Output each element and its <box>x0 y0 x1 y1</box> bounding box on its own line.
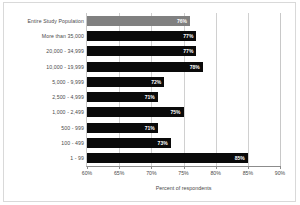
plot-area: Entire Study Population76%More than 35,0… <box>86 13 281 167</box>
bar-row: 1 - 9985% <box>87 151 280 166</box>
tick-mark <box>280 166 281 169</box>
bar-row: More than 35,00077% <box>87 28 280 43</box>
x-tick-label: 75% <box>178 170 188 176</box>
tick-mark <box>151 166 152 169</box>
category-label: 20,000 - 34,999 <box>46 48 84 54</box>
tick-mark <box>248 166 249 169</box>
bar-value-label: 76% <box>177 18 187 24</box>
tick-mark <box>184 166 185 169</box>
bar-value-label: 71% <box>145 125 155 131</box>
bar-row: 10,000 - 19,99978% <box>87 59 280 74</box>
x-tick-label: 80% <box>210 170 220 176</box>
x-tick-label: 90% <box>275 170 285 176</box>
bar-value-label: 75% <box>170 109 180 115</box>
category-label: 1 - 99 <box>70 155 84 161</box>
category-label: 100 - 499 <box>61 140 84 146</box>
bar-value-label: 73% <box>158 140 168 146</box>
x-tick-label: 60% <box>82 170 92 176</box>
x-tick-label: 65% <box>114 170 124 176</box>
x-axis-title: Percent of respondents <box>86 185 281 191</box>
bar: 75% <box>87 107 184 117</box>
bar: 85% <box>87 153 248 163</box>
bar: 77% <box>87 46 196 56</box>
category-label: 1,000 - 2,499 <box>52 109 84 115</box>
bar-value-label: 71% <box>145 94 155 100</box>
bar: 71% <box>87 92 158 102</box>
bar: 73% <box>87 138 171 148</box>
bar-value-label: 77% <box>183 48 193 54</box>
bar-row: 5,000 - 9,99972% <box>87 74 280 89</box>
bar: 77% <box>87 31 196 41</box>
tick-mark <box>119 166 120 169</box>
bar: 72% <box>87 77 164 87</box>
bar-rows: Entire Study Population76%More than 35,0… <box>87 13 280 166</box>
category-label: More than 35,000 <box>42 33 84 39</box>
category-label: 2,500 - 4,999 <box>52 94 84 100</box>
bar: 76% <box>87 16 190 26</box>
chart-frame: Entire Study Population76%More than 35,0… <box>3 2 296 202</box>
tick-mark <box>216 166 217 169</box>
category-label: Entire Study Population <box>27 18 84 24</box>
bar-row: 20,000 - 34,99977% <box>87 44 280 59</box>
bar-row: Entire Study Population76% <box>87 13 280 28</box>
bar-value-label: 72% <box>151 79 161 85</box>
category-label: 10,000 - 19,999 <box>46 64 84 70</box>
bar: 78% <box>87 62 203 72</box>
bar-value-label: 78% <box>190 64 200 70</box>
bar-row: 2,500 - 4,99971% <box>87 90 280 105</box>
bar-value-label: 77% <box>183 33 193 39</box>
category-label: 500 - 999 <box>61 125 84 131</box>
x-tick-label: 70% <box>146 170 156 176</box>
bar-row: 1,000 - 2,49975% <box>87 105 280 120</box>
bar-row: 100 - 49973% <box>87 135 280 150</box>
category-label: 5,000 - 9,999 <box>52 79 84 85</box>
bar-value-label: 85% <box>235 155 245 161</box>
x-tick-label: 85% <box>243 170 253 176</box>
bar-row: 500 - 99971% <box>87 120 280 135</box>
bar: 71% <box>87 123 158 133</box>
tick-mark <box>87 166 88 169</box>
